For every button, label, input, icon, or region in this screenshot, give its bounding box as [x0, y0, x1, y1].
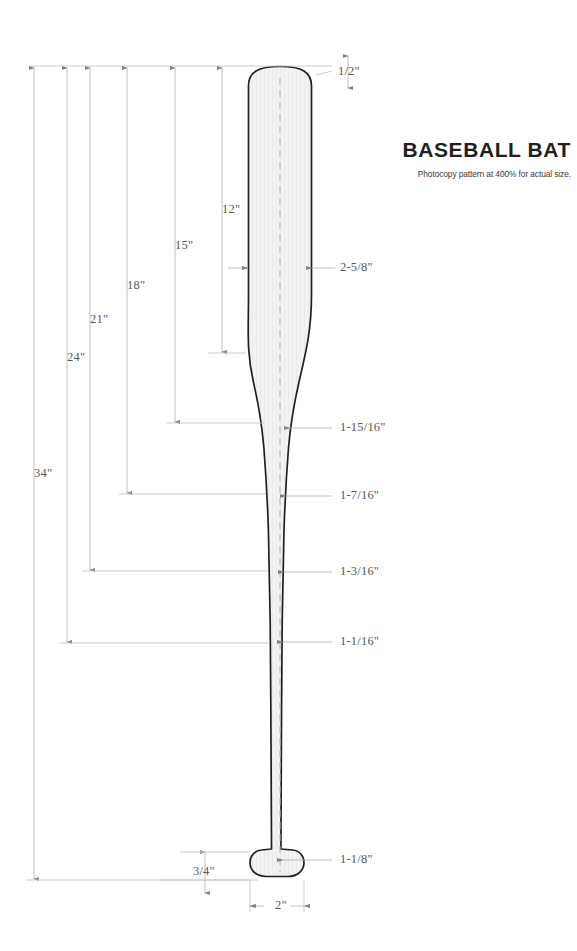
- pattern-sheet: BASEBALL BAT Photocopy pattern at 400% f…: [0, 0, 577, 951]
- dimension-label-len-18: 18": [127, 278, 145, 293]
- dimension-label-len-12: 12": [222, 202, 240, 217]
- dimension-label-handle-lower: 1-1/16": [340, 634, 379, 649]
- dimension-label-top-cap: 1/2": [338, 64, 360, 79]
- dimension-label-len-24: 24": [67, 350, 85, 365]
- dimension-label-knob-height: 3/4": [193, 864, 215, 879]
- page-subtitle: Photocopy pattern at 400% for actual siz…: [337, 169, 571, 179]
- dimension-label-len-21: 21": [90, 312, 108, 327]
- dimension-label-len-15: 15": [175, 238, 193, 253]
- dimension-label-taper-mid: 1-7/16": [340, 488, 379, 503]
- dimension-label-taper-upper: 1-15/16": [340, 420, 386, 435]
- bat-outline: [248, 67, 311, 877]
- dimension-label-knob-width: 2": [275, 898, 287, 913]
- dimension-label-knob-neck: 1-1/8": [340, 852, 373, 867]
- dimension-label-len-34: 34": [34, 466, 52, 481]
- dimension-label-handle-upper: 1-3/16": [340, 564, 379, 579]
- dimension-label-barrel: 2-5/8": [340, 260, 373, 275]
- page-title: BASEBALL BAT: [337, 138, 571, 161]
- length-dimension-lines: [26, 68, 270, 880]
- title-block: BASEBALL BAT Photocopy pattern at 400% f…: [337, 138, 571, 179]
